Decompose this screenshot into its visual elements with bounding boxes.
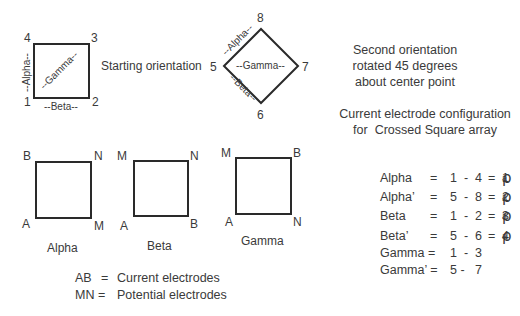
rho-index: 1 xyxy=(502,170,509,187)
eq-sign-2: = xyxy=(488,170,495,187)
legend-sep: = xyxy=(101,270,117,286)
eq-name: Alpha xyxy=(380,170,412,187)
gamma-corner-bottom-right: N xyxy=(293,215,302,229)
alpha-config-label: Alpha xyxy=(47,241,78,255)
gamma-config-label: Gamma xyxy=(241,234,284,248)
rho-index: 2 xyxy=(502,189,509,206)
alpha-corner-bottom-left: A xyxy=(22,217,30,231)
starting-square: 4 3 1 2 --Alpha-- --Beta-- --Gamma-- xyxy=(21,31,99,112)
eq-pair: 5 - 7 xyxy=(450,262,482,279)
eq-sign: = xyxy=(430,170,437,187)
beta-corner-bottom-left: A xyxy=(120,219,128,233)
corner-2: 2 xyxy=(92,95,99,109)
gamma-diagonal-label: --Gamma-- xyxy=(38,49,80,91)
corner-8: 8 xyxy=(257,11,264,25)
beta-prime-side-label: --Beta-- xyxy=(228,72,260,104)
subtitle-line-1: Current electrode configuration xyxy=(325,106,520,122)
gamma-corner-top-right: B xyxy=(293,146,301,160)
eq-name: Beta xyxy=(380,208,406,225)
beta-side-label: --Beta-- xyxy=(44,101,78,112)
rotated-square: 8 7 6 5 --Alpha-- --Beta-- --Gamma-- xyxy=(210,11,309,122)
gamma-corner-bottom-left: A xyxy=(225,215,233,229)
subtitle-line-2: for Crossed Square array xyxy=(325,122,520,138)
rho-index: 4 xyxy=(502,228,509,245)
eq-pair: 5 - 6 xyxy=(450,228,482,245)
alpha-square xyxy=(36,162,91,218)
alpha-corner-top-right: N xyxy=(94,149,103,163)
eq-pair: 1 - 2 xyxy=(450,208,482,225)
beta-config: M N A B Beta xyxy=(117,149,199,253)
gamma-prime-label: --Gamma-- xyxy=(236,60,285,71)
rho-index: 3 xyxy=(502,208,509,225)
legend-key: MN = xyxy=(75,287,117,303)
gamma-square xyxy=(236,158,291,214)
eq-pair: 1 - 4 xyxy=(450,170,482,187)
eq-sign: = xyxy=(430,189,437,206)
beta-corner-bottom-right: B xyxy=(190,217,198,231)
legend-value: Current electrodes xyxy=(117,271,220,285)
beta-corner-top-right: N xyxy=(190,149,199,163)
beta-config-label: Beta xyxy=(147,239,172,253)
starting-orientation-caption: Starting orientation xyxy=(101,59,202,73)
corner-6: 6 xyxy=(257,108,264,122)
eq-sign-2: = xyxy=(488,228,495,245)
alpha-config: B N A M Alpha xyxy=(22,149,104,255)
beta-square xyxy=(134,161,188,216)
legend-current: AB=Current electrodes xyxy=(75,270,220,286)
eq-sign-2: = xyxy=(488,208,495,225)
corner-7: 7 xyxy=(302,60,309,74)
alpha-side-label: --Alpha-- xyxy=(21,53,32,92)
caption-line-1: Second orientation xyxy=(340,42,470,58)
alpha-corner-bottom-right: M xyxy=(94,219,104,233)
legend-potential: MN =Potential electrodes xyxy=(75,287,227,303)
eq-name: Alpha’ xyxy=(380,189,415,206)
legend-value: Potential electrodes xyxy=(117,288,227,302)
corner-3: 3 xyxy=(91,31,98,45)
eq-sign-2: = xyxy=(488,189,495,206)
subtitle: Current electrode configuration for Cros… xyxy=(325,106,520,138)
gamma-config: M B A N Gamma xyxy=(221,146,302,248)
alpha-corner-top-left: B xyxy=(23,149,31,163)
caption-line-3: about center point xyxy=(340,74,470,90)
eq-sign: = xyxy=(430,208,437,225)
corner-4: 4 xyxy=(24,31,31,45)
eq-pair: 5 - 8 xyxy=(450,189,482,206)
corner-1: 1 xyxy=(24,95,31,109)
eq-pair: 1 - 3 xyxy=(450,245,482,262)
eq-name: Gamma = xyxy=(380,245,435,262)
legend-key: AB xyxy=(75,270,101,286)
eq-name: Gamma’ = xyxy=(380,262,438,279)
gamma-corner-top-left: M xyxy=(221,146,231,160)
eq-name: Beta’ xyxy=(380,228,409,245)
eq-sign: = xyxy=(430,228,437,245)
caption-line-2: rotated 45 degrees xyxy=(340,58,470,74)
second-orientation-caption: Second orientation rotated 45 degrees ab… xyxy=(340,42,470,90)
beta-corner-top-left: M xyxy=(117,149,127,163)
corner-5: 5 xyxy=(210,60,217,74)
